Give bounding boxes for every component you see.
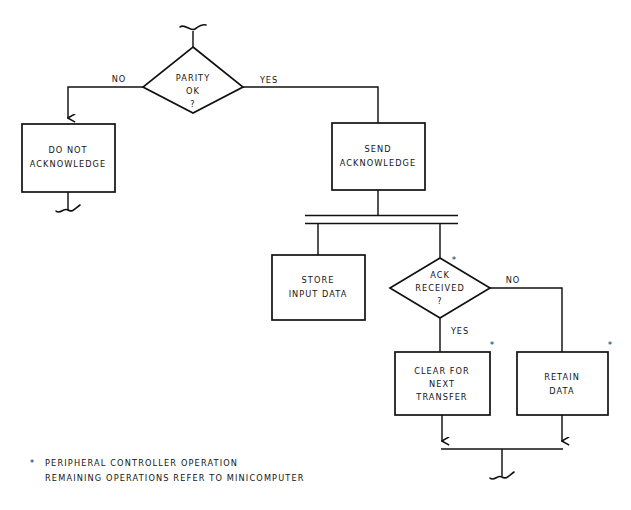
decision-ack-received: ACK RECEIVED ? * [390,255,490,319]
process-send-ack-line2: ACKNOWLEDGE [340,158,416,168]
asterisk-marker-ack-received: * [452,255,457,265]
process-clear-line1: CLEAR FOR [414,366,470,376]
flowchart-svg: PARITY OK ? NO DO NOT ACKNOWLEDGE YES [0,0,631,510]
process-store-input-data: STORE INPUT DATA [272,255,365,320]
edge-ack-yes: YES [440,318,469,352]
process-retain-line2: DATA [549,386,574,396]
footnote-line-2: REMAINING OPERATIONS REFER TO MINICOMPUT… [45,473,305,483]
process-clear-line3: TRANSFER [415,392,467,402]
edge-ack-no: NO [490,275,562,353]
decision-ack-line1: ACK [430,270,450,280]
edge-label-ack-no: NO [506,275,520,285]
exit-connector-left [56,192,80,212]
process-do-not-ack-line2: ACKNOWLEDGE [30,159,106,169]
footnote: * PERIPHERAL CONTROLLER OPERATION REMAIN… [30,458,305,483]
process-clear-line2: NEXT [429,379,455,389]
process-send-acknowledge: SEND ACKNOWLEDGE [332,123,425,190]
edge-parity-yes: YES [243,75,378,124]
decision-ack-line2: RECEIVED [415,283,465,293]
asterisk-marker-clear-transfer: * [490,340,495,350]
decision-parity-ok: PARITY OK ? [143,47,243,113]
edge-label-parity-yes: YES [259,75,278,85]
merge-connector [441,415,563,479]
decision-parity-line3: ? [190,99,195,109]
footnote-symbol: * [30,458,35,468]
process-store-input-line2: INPUT DATA [289,289,348,299]
decision-parity-line1: PARITY [176,73,210,83]
process-clear-for-next-transfer: CLEAR FOR NEXT TRANSFER * [395,340,495,416]
edge-label-parity-no: NO [112,74,126,84]
edge-parity-no: NO [68,74,143,119]
process-do-not-ack-line1: DO NOT [48,145,87,155]
process-retain-data: RETAIN DATA * [517,340,613,416]
fork-bar [305,190,458,224]
process-do-not-acknowledge: DO NOT ACKNOWLEDGE [22,124,115,192]
entry-connector [180,25,206,47]
flowchart-canvas: PARITY OK ? NO DO NOT ACKNOWLEDGE YES [0,0,631,510]
process-store-input-line1: STORE [302,275,335,285]
asterisk-marker-retain-data: * [608,340,613,350]
decision-ack-line3: ? [437,296,442,306]
process-retain-line1: RETAIN [544,372,580,382]
process-send-ack-line1: SEND [365,144,392,154]
edge-label-ack-yes: YES [450,326,469,336]
decision-parity-line2: OK [186,86,200,96]
footnote-line-1: PERIPHERAL CONTROLLER OPERATION [45,458,238,468]
